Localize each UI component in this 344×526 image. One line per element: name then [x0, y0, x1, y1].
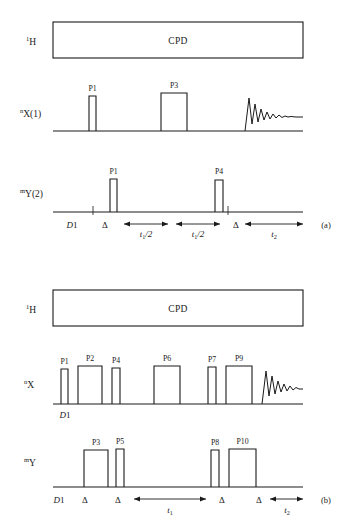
pulse-p7-x-b	[208, 367, 216, 404]
arrowhead-left	[124, 222, 130, 227]
x-baseline-d1-label-b: D1	[59, 410, 71, 420]
panel-tag-a: (a)	[321, 220, 331, 230]
pulse-label-p5-y-b: P5	[116, 437, 124, 446]
timing-delta2-a: Δ	[233, 220, 239, 230]
panel-b-timing-axis: D1 Δ Δ t1 Δ Δ t2	[53, 495, 332, 516]
y-channel-label: mY(2)	[20, 187, 43, 200]
panel-b-x-channel: nX P1 P2 P4 P6 P7 P9 D1	[24, 354, 303, 420]
timing-label-t2-b: t2	[284, 505, 290, 516]
panel-b-proton-channel: 1H CPD	[26, 290, 303, 326]
x-nucleus: X(1)	[23, 109, 41, 120]
x-channel-label-b: nX	[24, 378, 34, 390]
pulse-label-p2-x-b: P2	[86, 354, 94, 363]
panel-a-proton-channel: 1H CPD	[26, 22, 303, 58]
x-channel-label: nX(1)	[20, 107, 41, 120]
panel-a-y-channel: mY(2) P1 P4	[20, 167, 303, 212]
pulse-sequence-figure: 1H CPD nX(1) P1 P3 mY(2)	[0, 0, 344, 526]
timing-d1-a: D1	[66, 220, 78, 230]
x-nucleus-b: X	[27, 380, 34, 390]
pulse-p6-x-b	[154, 366, 180, 404]
arrowhead-left	[134, 497, 140, 502]
panel-a-timing-axis: D1 Δ t1/2 t1/2 Δ	[66, 206, 331, 240]
arrowhead-right	[200, 497, 206, 502]
proton-nucleus: H	[29, 37, 36, 47]
arrowhead-right	[162, 222, 168, 227]
timing-label-t1half-second-a: t1/2	[192, 229, 205, 240]
timing-span-t2-a: t2	[245, 222, 303, 241]
pulse-label-p1-x: P1	[88, 84, 96, 93]
timing-span-t1half-second-a: t1/2	[176, 222, 220, 241]
pulse-label-p7-x-b: P7	[208, 355, 216, 364]
pulse-p10-y-b	[229, 449, 256, 487]
arrowhead-right	[214, 222, 220, 227]
cpd-label: CPD	[168, 36, 187, 46]
arrowhead-left	[270, 497, 276, 502]
pulse-p5-y-b	[116, 449, 124, 487]
arrowhead-left	[176, 222, 182, 227]
proton-nucleus-b: H	[29, 305, 36, 315]
pulse-p1-y	[110, 179, 117, 212]
arrowhead-left	[245, 222, 251, 227]
pulse-p3-x	[161, 93, 187, 131]
pulse-p8-y-b	[211, 450, 219, 487]
pulse-label-p6-x-b: P6	[163, 354, 171, 363]
timing-delta4-b: Δ	[256, 495, 262, 505]
pulse-p3-y-b	[84, 450, 108, 487]
proton-channel-label-b: 1H	[26, 303, 36, 315]
timing-span-t2-b: t2	[270, 497, 303, 517]
pulse-p4-y	[215, 180, 223, 212]
timing-delta1-a: Δ	[102, 220, 108, 230]
figure-canvas: 1H CPD nX(1) P1 P3 mY(2)	[0, 0, 344, 526]
pulse-label-p1-y: P1	[109, 167, 117, 176]
panel-a: 1H CPD nX(1) P1 P3 mY(2)	[20, 22, 331, 240]
arrowhead-right	[297, 222, 303, 227]
panel-b-y-channel: mY P3 P5 P8 P10	[24, 437, 303, 487]
pulse-label-p9-x-b: P9	[235, 354, 243, 363]
panel-tag-b: (b)	[321, 495, 331, 505]
timing-delta2-b: Δ	[115, 495, 121, 505]
timing-delta1-b: Δ	[82, 495, 88, 505]
pulse-label-p3-y-b: P3	[92, 438, 100, 447]
y-channel-label-b: mY	[24, 456, 36, 468]
fid-x-panel-a	[245, 98, 303, 131]
pulse-label-p4-x-b: P4	[112, 356, 120, 365]
pulse-p1-x	[89, 96, 96, 131]
timing-span-t1half-first-a: t1/2	[124, 222, 168, 241]
proton-channel-label: 1H	[26, 35, 36, 47]
pulse-label-p8-y-b: P8	[211, 438, 219, 447]
pulse-label-p10-y-b: P10	[236, 437, 248, 446]
timing-d1-b: D1	[53, 495, 65, 505]
timing-label-t1half-first-a: t1/2	[140, 229, 153, 240]
pulse-label-p1-x-b: P1	[60, 357, 68, 366]
timing-label-t1-b: t1	[167, 505, 173, 516]
timing-span-t1-b: t1	[134, 497, 206, 517]
pulse-p4-x-b	[112, 368, 120, 404]
pulse-label-p3-x: P3	[170, 81, 178, 90]
cpd-label-b: CPD	[168, 304, 187, 314]
panel-a-x-channel: nX(1) P1 P3	[20, 81, 303, 131]
panel-b: 1H CPD nX P1 P2 P4 P6 P7 P9	[24, 290, 331, 516]
pulse-p9-x-b	[226, 366, 252, 404]
pulse-label-p4-y: P4	[215, 167, 223, 176]
pulse-p2-x-b	[78, 366, 102, 404]
y-nucleus: Y(2)	[25, 189, 43, 200]
arrowhead-right	[297, 497, 303, 502]
fid-x-panel-b	[262, 371, 303, 404]
timing-delta3-b: Δ	[219, 495, 225, 505]
pulse-p1-x-b	[61, 369, 68, 404]
y-nucleus-b: Y	[29, 458, 36, 468]
timing-label-t2-a: t2	[271, 229, 277, 240]
